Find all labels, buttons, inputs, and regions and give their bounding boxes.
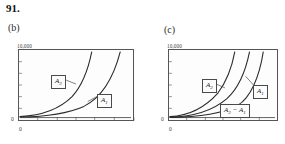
panel-c-x-min-label: 0	[169, 126, 172, 132]
panel-c-callout-a2: A2	[202, 79, 217, 93]
panel-c-label: (c)	[164, 24, 175, 35]
panel-c-y-min-label: 0	[161, 116, 164, 122]
panel-c-callout-a1: A1	[253, 85, 268, 99]
panel-c-callout-diff-second-sub: 1	[243, 110, 246, 115]
panel-c: (c) 10,000 0 0	[150, 0, 285, 144]
panel-b-callout-a2: A2	[51, 75, 66, 89]
panel-b-y-ticks	[19, 62, 22, 109]
panel-b-plot-svg	[19, 50, 133, 120]
panel-b-y-min-label: 0	[11, 116, 14, 122]
panel-c-callout-diff-first-sub: 2	[228, 110, 231, 115]
panel-c-leader-a1	[246, 76, 254, 85]
panel-c-callout-a2-sub: 2	[210, 85, 213, 90]
figure-page: 91. (b) 10,000 0 0 50	[0, 0, 285, 144]
panel-c-callout-difference: A2 − A1	[220, 104, 250, 118]
panel-c-callout-a1-sub: 1	[261, 91, 264, 96]
panel-b-callout-a1-sub: 1	[105, 100, 108, 105]
panel-c-y-ticks	[169, 62, 172, 109]
panel-c-callout-diff-minus: −	[231, 106, 239, 114]
panel-b-callout-a2-sub: 2	[59, 81, 62, 86]
panel-b: (b) 10,000 0 0 50	[0, 0, 150, 144]
panel-b-label: (b)	[8, 22, 20, 33]
panel-b-plot-frame	[18, 49, 134, 121]
panel-b-leader-a2	[66, 80, 76, 84]
panel-b-callout-a1: A1	[97, 94, 112, 108]
panel-b-x-min-label: 0	[19, 126, 22, 132]
